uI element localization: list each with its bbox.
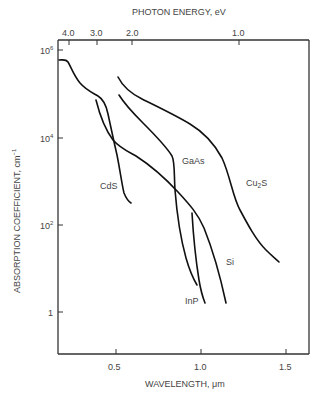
label-gaas: GaAs bbox=[182, 156, 205, 166]
label-cds: CdS bbox=[100, 181, 118, 191]
x-tick-15: 1.5 bbox=[279, 362, 292, 372]
absorption-chart: CdS GaAs Cu2S Si InP PHOTON ENERGY, eV 4… bbox=[0, 0, 317, 393]
y-tick-1e6: 106 bbox=[40, 45, 54, 56]
label-cu2s: Cu2S bbox=[246, 178, 267, 189]
top-axis-title: PHOTON ENERGY, eV bbox=[132, 7, 226, 17]
label-si: Si bbox=[226, 257, 234, 267]
y-tick-1e2: 102 bbox=[40, 220, 54, 231]
x-tick-05: 0.5 bbox=[108, 362, 121, 372]
label-inp: InP bbox=[185, 296, 199, 306]
top-tick-1: 1.0 bbox=[232, 28, 245, 38]
curve-gaas bbox=[119, 95, 197, 285]
top-tick-3: 3.0 bbox=[90, 28, 103, 38]
curve-cds-diagonal bbox=[96, 100, 226, 303]
y-tick-1: 1 bbox=[48, 308, 53, 318]
y-tick-1e4: 104 bbox=[40, 133, 54, 144]
curve-cu2s bbox=[118, 77, 279, 262]
top-tick-4: 4.0 bbox=[62, 28, 75, 38]
y-axis-title: ABSORPTION COEFFICIENT, cm−1 bbox=[11, 148, 22, 293]
top-tick-2: 2.0 bbox=[126, 28, 139, 38]
ticks bbox=[58, 40, 286, 354]
x-tick-10: 1.0 bbox=[194, 362, 207, 372]
x-axis-title: WAVELENGTH, μm bbox=[145, 379, 225, 389]
